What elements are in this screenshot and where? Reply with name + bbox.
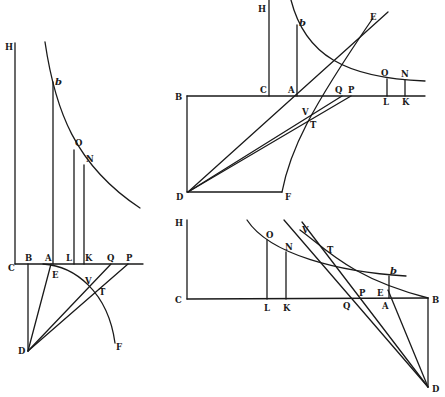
point-label-b: b — [299, 17, 306, 28]
point-label-F: F — [285, 192, 291, 202]
point-label-V: V — [84, 276, 92, 286]
figure-bottom-right: HONVTbCLKQPEABD — [175, 218, 440, 394]
segment — [28, 264, 51, 351]
point-label-A: A — [287, 85, 295, 95]
point-label-A: A — [381, 301, 389, 311]
segment — [284, 220, 428, 387]
point-label-B: B — [175, 92, 182, 102]
point-label-H: H — [5, 42, 13, 52]
segment — [188, 96, 351, 192]
point-label-O: O — [381, 68, 389, 78]
point-label-B: B — [432, 295, 439, 305]
point-label-P: P — [126, 253, 133, 263]
figure-left: HbONCBALKQPEVTDF — [5, 42, 143, 356]
segment — [388, 290, 428, 387]
point-label-H: H — [175, 218, 183, 228]
geometry-plate: HbONCBALKQPEVTDF HbEONBCAQPLKVTDF HONVTb… — [0, 0, 445, 397]
point-label-K: K — [85, 253, 93, 263]
point-label-A: A — [44, 253, 52, 263]
point-label-N: N — [285, 242, 293, 252]
point-label-C: C — [175, 295, 182, 305]
point-label-T: T — [310, 120, 317, 130]
point-label-E: E — [52, 270, 59, 280]
figure-top-right: HbEONBCAQPLKVTDF — [175, 0, 425, 202]
point-label-C: C — [8, 263, 15, 273]
point-label-Q: Q — [335, 85, 343, 95]
point-label-L: L — [264, 303, 270, 313]
diagram-canvas: HbONCBALKQPEVTDF HbEONBCAQPLKVTDF HONVTb… — [0, 0, 445, 397]
segment — [28, 264, 111, 351]
point-label-P: P — [348, 85, 355, 95]
point-label-T: T — [327, 245, 334, 255]
point-label-E: E — [370, 12, 377, 22]
point-label-B: B — [25, 253, 32, 263]
point-label-D: D — [18, 346, 26, 356]
point-label-D: D — [432, 384, 440, 394]
segment — [188, 96, 342, 192]
point-label-b: b — [390, 265, 397, 276]
point-label-V: V — [301, 225, 309, 235]
point-label-C: C — [260, 85, 267, 95]
point-label-H: H — [258, 4, 266, 14]
point-label-b: b — [55, 76, 62, 87]
point-label-V: V — [301, 107, 309, 117]
point-label-O: O — [75, 138, 83, 148]
point-label-N: N — [86, 154, 94, 164]
point-label-Q: Q — [107, 253, 115, 263]
point-label-P: P — [359, 288, 366, 298]
point-label-O: O — [266, 230, 274, 240]
point-label-D: D — [176, 192, 184, 202]
point-label-E: E — [377, 288, 384, 298]
curve — [45, 42, 140, 208]
point-label-K: K — [283, 303, 291, 313]
point-label-Q: Q — [343, 301, 351, 311]
point-label-L: L — [383, 97, 389, 107]
point-label-F: F — [116, 342, 122, 352]
point-label-L: L — [66, 253, 72, 263]
point-label-N: N — [401, 69, 409, 79]
point-label-K: K — [402, 97, 410, 107]
point-label-T: T — [99, 287, 106, 297]
